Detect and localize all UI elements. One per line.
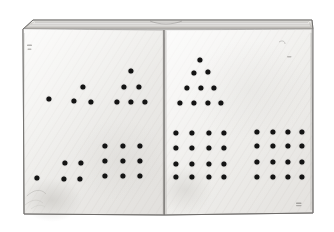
page-block-top-edge xyxy=(24,20,313,29)
left-page-surface xyxy=(22,29,166,222)
book-illustration xyxy=(0,0,334,232)
book-photo-scene: A photograph of an open book, both pages… xyxy=(0,0,334,232)
book-spine xyxy=(162,30,168,215)
